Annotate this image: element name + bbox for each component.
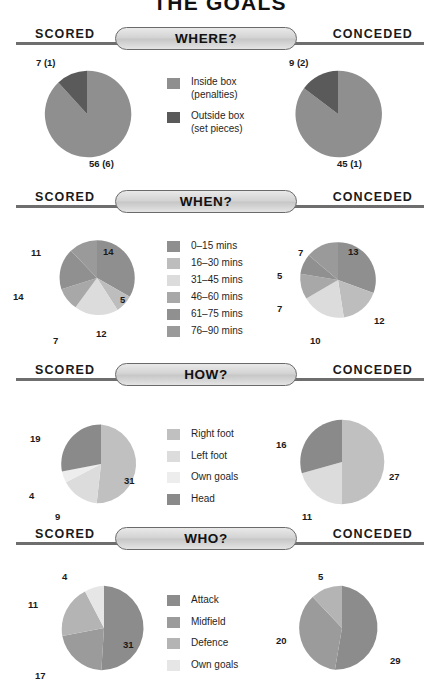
legend-swatch-icon — [167, 638, 180, 649]
pie-label-when-scored-11: 11 — [31, 248, 41, 258]
pie-label-how-scored-9: 9 — [55, 512, 60, 522]
pie-when-conceded — [295, 237, 381, 323]
legend-swatch-icon — [167, 451, 180, 462]
section-title-text: WHO? — [184, 531, 228, 546]
pie-label-when-scored-14a: 14 — [103, 247, 114, 257]
pie-label-when-scored-7: 7 — [53, 336, 58, 346]
legend-label-line1: Inside box — [191, 76, 238, 89]
pie-label-when-conceded-7a: 7 — [298, 248, 303, 258]
pie-label-where-conceded-1: 45 (1) — [337, 159, 362, 169]
conceded-label: CONCEDED — [328, 527, 418, 541]
scored-label: SCORED — [30, 27, 100, 41]
pie-label-who-conceded-29: 29 — [390, 656, 401, 666]
section-title-text: WHEN? — [180, 194, 233, 209]
pie-label-who-scored-17: 17 — [35, 671, 46, 681]
legend-item: 0–15 mins — [167, 240, 243, 253]
pie-where-conceded — [291, 67, 385, 161]
section-header-how: SCORED CONCEDED HOW? — [0, 358, 440, 388]
pie-label-where-scored-1: 56 (6) — [89, 159, 114, 169]
page-title: THE GOALS — [0, 0, 440, 15]
pie-label-who-conceded-20: 20 — [276, 636, 287, 646]
section-title-pill-when: WHEN? — [115, 190, 297, 213]
legend-label: Defence — [191, 637, 228, 650]
legend-item: Own goals — [167, 471, 238, 484]
legend-label: Head — [191, 493, 215, 506]
legend-label: Left foot — [191, 450, 227, 463]
pie-label-when-conceded-5: 5 — [277, 271, 282, 281]
legend-swatch-icon — [167, 595, 180, 606]
legend-label-line2: (set pieces) — [191, 123, 244, 136]
pie-label-who-scored-4: 4 — [62, 572, 67, 582]
legend-swatch-icon — [167, 112, 180, 123]
legend-item: Right foot — [167, 428, 238, 441]
pie-label-when-scored-5: 5 — [120, 295, 125, 305]
legend-label: 76–90 mins — [191, 325, 243, 338]
section-when: SCORED CONCEDED WHEN? 11 14 14 5 7 12 — [0, 185, 440, 345]
conceded-label: CONCEDED — [328, 27, 418, 41]
legend-swatch-icon — [167, 494, 180, 505]
legend-label: 0–15 mins — [191, 240, 237, 253]
section-body-where: 7 (1) 56 (6) Inside box (penalties) Outs… — [0, 52, 440, 172]
pie-how-conceded — [296, 416, 388, 508]
section-body-who: 4 11 31 17 Attack Midfield Defence Own g… — [0, 552, 440, 677]
pie-how-scored — [57, 420, 145, 508]
legend-item: Attack — [167, 594, 238, 607]
legend-label: Midfield — [191, 616, 225, 629]
pie-label-how-scored-4: 4 — [29, 491, 34, 501]
legend-how: Right foot Left foot Own goals Head — [167, 428, 238, 511]
pie-label-how-scored-19: 19 — [30, 434, 41, 444]
legend-item: Defence — [167, 637, 238, 650]
legend-item: Head — [167, 493, 238, 506]
legend-label: Outside box (set pieces) — [191, 110, 244, 135]
legend-swatch-icon — [167, 472, 180, 483]
legend-label-line2: (penalties) — [191, 89, 238, 102]
pie-label-how-conceded-11: 11 — [302, 512, 312, 522]
section-title-text: HOW? — [184, 367, 228, 382]
legend-label: Own goals — [191, 471, 238, 484]
pie-label-where-conceded-0: 9 (2) — [289, 58, 309, 68]
conceded-label: CONCEDED — [328, 363, 418, 377]
legend-item: Own goals — [167, 659, 238, 672]
pie-label-when-conceded-12: 12 — [374, 316, 385, 326]
section-body-when: 11 14 14 5 7 12 0–15 mins 16–30 mins 31–… — [0, 215, 440, 345]
section-header-where: SCORED CONCEDED WHERE? — [0, 22, 440, 52]
pie-label-when-scored-14b: 14 — [13, 292, 24, 302]
pie-label-when-conceded-10: 10 — [310, 336, 321, 346]
pie-label-how-scored-31: 31 — [124, 476, 135, 486]
section-header-who: SCORED CONCEDED WHO? — [0, 522, 440, 552]
legend-when: 0–15 mins 16–30 mins 31–45 mins 46–60 mi… — [167, 240, 243, 342]
legend-swatch-icon — [167, 617, 180, 628]
section-where: SCORED CONCEDED WHERE? 7 (1) 56 (6) Insi… — [0, 22, 440, 172]
section-header-when: SCORED CONCEDED WHEN? — [0, 185, 440, 215]
section-title-pill-how: HOW? — [115, 363, 297, 386]
pie-where-scored — [40, 67, 134, 161]
legend-swatch-icon — [167, 309, 180, 320]
legend-label: Attack — [191, 594, 219, 607]
legend-item: 61–75 mins — [167, 308, 243, 321]
legend-swatch-icon — [167, 326, 180, 337]
pie-label-when-conceded-7b: 7 — [277, 304, 282, 314]
legend-item: 31–45 mins — [167, 274, 243, 287]
legend-item: 76–90 mins — [167, 325, 243, 338]
legend-label: Own goals — [191, 659, 238, 672]
legend-label: Inside box (penalties) — [191, 76, 238, 101]
section-title-pill-where: WHERE? — [115, 27, 297, 50]
scored-label: SCORED — [30, 527, 100, 541]
legend-label-line1: Outside box — [191, 110, 244, 123]
section-title-text: WHERE? — [175, 31, 237, 46]
legend-label: 46–60 mins — [191, 291, 243, 304]
pie-label-who-conceded-5: 5 — [318, 572, 323, 582]
legend-label: 31–45 mins — [191, 274, 243, 287]
legend-item: 16–30 mins — [167, 257, 243, 270]
legend-label: 16–30 mins — [191, 257, 243, 270]
section-how: SCORED CONCEDED HOW? 19 31 4 9 Right foo… — [0, 358, 440, 513]
legend-label: 61–75 mins — [191, 308, 243, 321]
section-title-pill-who: WHO? — [115, 527, 297, 550]
conceded-label: CONCEDED — [328, 190, 418, 204]
legend-item: Inside box (penalties) — [167, 76, 244, 101]
section-body-how: 19 31 4 9 Right foot Left foot Own goals… — [0, 388, 440, 513]
pie-label-who-scored-31: 31 — [123, 640, 134, 650]
legend-swatch-icon — [167, 241, 180, 252]
pie-label-who-scored-11: 11 — [28, 600, 38, 610]
pie-label-when-scored-12: 12 — [96, 329, 107, 339]
